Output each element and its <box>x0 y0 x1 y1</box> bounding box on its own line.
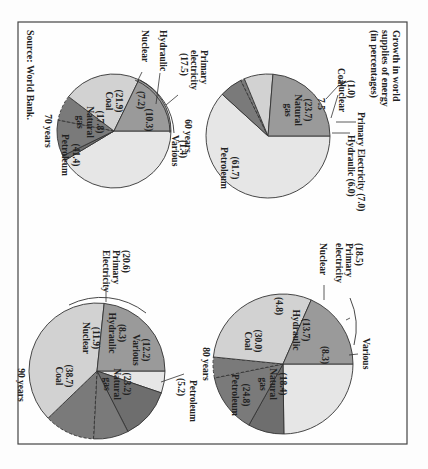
svg-text:electricity: electricity <box>189 50 199 90</box>
svg-text:electricity: electricity <box>334 243 344 283</box>
svg-text:Nuclear: Nuclear <box>318 243 328 276</box>
svg-text:Petroleum: Petroleum <box>188 380 198 422</box>
svg-text:Coal: Coal <box>243 332 253 351</box>
svg-text:Various: Various <box>131 334 141 366</box>
svg-text:Primary: Primary <box>111 250 121 285</box>
svg-text:Hydraulic: Hydraulic <box>158 30 168 71</box>
svg-text:Petroleum: Petroleum <box>60 134 70 176</box>
svg-text:(41.4): (41.4) <box>70 144 81 167</box>
svg-text:(24.8): (24.8) <box>240 384 251 407</box>
svg-text:Petroleum: Petroleum <box>219 147 229 189</box>
svg-text:Nuclear: Nuclear <box>140 30 150 63</box>
svg-text:Various: Various <box>170 135 180 167</box>
svg-text:Nuclear: Nuclear <box>337 80 347 113</box>
source-note: Source: World Bank. <box>25 30 36 120</box>
svg-text:Natural: Natural <box>268 368 278 400</box>
svg-text:Hydraulic: Hydraulic <box>107 312 117 353</box>
svg-text:(8.3): (8.3) <box>319 346 330 364</box>
svg-text:(10.3): (10.3) <box>143 109 154 132</box>
svg-text:Coal: Coal <box>54 367 64 386</box>
svg-text:Natural: Natural <box>293 94 303 126</box>
svg-text:Natural: Natural <box>85 106 95 138</box>
svg-text:(in percentages): (in percentages) <box>368 30 380 98</box>
svg-text:Electricity: Electricity <box>101 250 111 292</box>
svg-text:(5.2): (5.2) <box>175 378 186 396</box>
year-label-80: 80 years <box>201 347 211 381</box>
svg-text:Primary: Primary <box>199 50 209 85</box>
svg-text:Hydraulic (6.0): Hydraulic (6.0) <box>345 135 356 197</box>
svg-text:gas: gas <box>258 377 268 391</box>
svg-text:Nuclear: Nuclear <box>81 322 91 355</box>
figure: Growth in world supplies of energy (in p… <box>0 0 428 469</box>
svg-text:gas: gas <box>102 377 112 391</box>
svg-text:gas: gas <box>75 115 85 129</box>
svg-text:(4.8): (4.8) <box>273 297 284 315</box>
svg-text:7.5: 7.5 <box>316 98 326 110</box>
svg-text:Various: Various <box>361 338 371 370</box>
svg-text:(7.2): (7.2) <box>135 91 146 109</box>
svg-text:Hydraulic: Hydraulic <box>291 309 301 350</box>
svg-text:Petroleum: Petroleum <box>230 374 240 416</box>
year-label-90: 90 years <box>16 368 26 402</box>
svg-text:supplies of energy: supplies of energy <box>380 30 391 107</box>
year-label-70: 70 years <box>43 114 53 148</box>
svg-text:Coal: Coal <box>104 92 114 111</box>
svg-text:gas: gas <box>283 103 293 117</box>
svg-text:Primary: Primary <box>344 243 354 278</box>
svg-text:Natural: Natural <box>112 368 122 400</box>
pie-90-years <box>29 303 165 439</box>
figure-title: Growth in world supplies of energy (in p… <box>368 30 402 107</box>
svg-text:(61.7): (61.7) <box>229 157 240 180</box>
svg-text:(17.5): (17.5) <box>178 53 189 76</box>
svg-text:Growth in world: Growth in world <box>391 30 402 102</box>
